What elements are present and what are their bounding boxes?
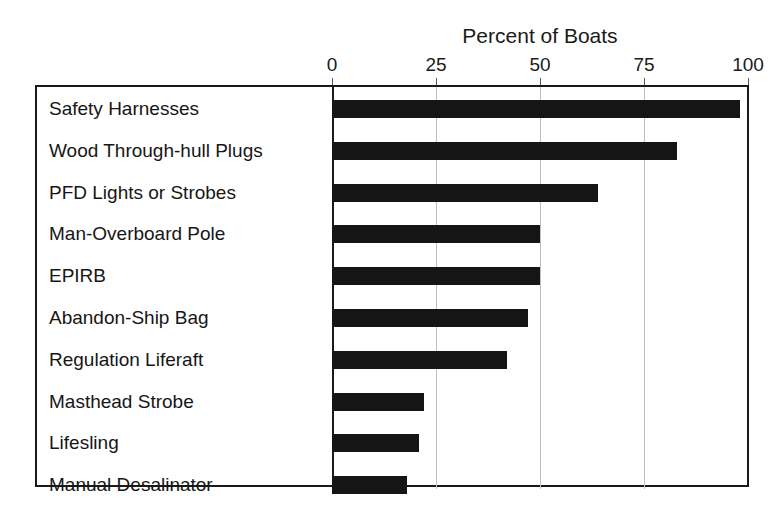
x-tick-mark-25: [436, 78, 437, 85]
x-tick-label-75: 75: [633, 53, 654, 76]
x-tick-mark-0: [332, 78, 333, 85]
x-tick-label-25: 25: [425, 53, 446, 76]
x-tick-label-100: 100: [732, 53, 764, 76]
bar-8: [332, 434, 419, 452]
category-label-7: Masthead Strobe: [49, 391, 194, 413]
x-tick-label-50: 50: [529, 53, 550, 76]
bar-5: [332, 309, 528, 327]
bar-7: [332, 393, 424, 411]
category-label-3: Man-Overboard Pole: [49, 223, 225, 245]
bar-0: [332, 100, 740, 118]
category-label-0: Safety Harnesses: [49, 98, 199, 120]
plot-area: Safety HarnessesWood Through-hull PlugsP…: [37, 87, 751, 489]
category-label-8: Lifesling: [49, 432, 119, 454]
category-label-2: PFD Lights or Strobes: [49, 182, 236, 204]
x-axis-tick-labels: 0255075100: [0, 53, 777, 79]
bar-9: [332, 476, 407, 494]
x-tick-mark-50: [540, 78, 541, 85]
chart-title: Percent of Boats: [332, 24, 748, 48]
bar-2: [332, 184, 598, 202]
bar-chart-figure: Percent of Boats 0255075100 Safety Harne…: [0, 0, 777, 506]
category-label-5: Abandon-Ship Bag: [49, 307, 209, 329]
bar-3: [332, 225, 540, 243]
x-tick-mark-75: [644, 78, 645, 85]
x-tick-label-0: 0: [327, 53, 338, 76]
category-label-4: EPIRB: [49, 265, 106, 287]
category-label-6: Regulation Liferaft: [49, 349, 203, 371]
category-label-1: Wood Through-hull Plugs: [49, 140, 263, 162]
bar-4: [332, 267, 540, 285]
x-tick-mark-100: [748, 78, 749, 85]
bar-1: [332, 142, 677, 160]
plot-frame: Safety HarnessesWood Through-hull PlugsP…: [35, 85, 749, 487]
bar-6: [332, 351, 507, 369]
category-label-9: Manual Desalinator: [49, 474, 213, 496]
